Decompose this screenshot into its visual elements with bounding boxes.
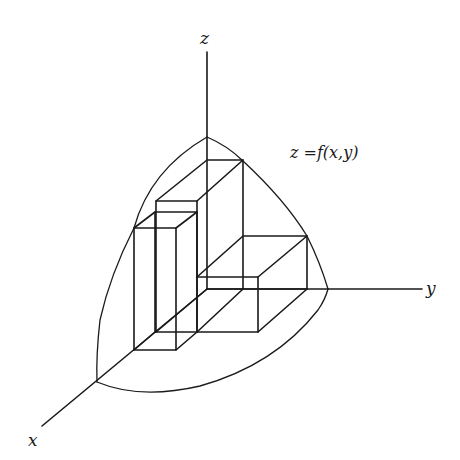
- front-left-box: [134, 212, 197, 350]
- surface-outline: [97, 137, 328, 392]
- surface-equation-label: z =f(x,y): [290, 143, 358, 162]
- surface-edge-xy: [97, 289, 328, 392]
- y-axis-label: y: [426, 278, 436, 298]
- diagram-canvas: [0, 0, 460, 460]
- z-axis-label: z: [200, 28, 209, 48]
- tall-back-box: [156, 160, 243, 332]
- x-axis-label: x: [28, 430, 38, 450]
